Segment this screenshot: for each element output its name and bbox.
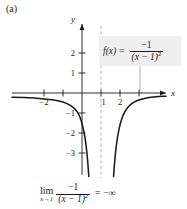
y-tick-label--3: −3 <box>66 148 75 158</box>
x-tick-label-1: 1 <box>101 97 105 107</box>
limit-fraction: −1 (x − 1)2 <box>56 183 90 205</box>
x-axis-arrowhead <box>160 91 166 96</box>
formula-expression: f(x) = −1 (x − 1)2 <box>103 38 181 65</box>
formula-denominator: (x − 1)2 <box>130 52 164 62</box>
formula-numerator: −1 <box>139 41 153 51</box>
limit-denominator: (x − 1)2 <box>56 195 90 205</box>
limit-statement: lim x→1 −1 (x − 1)2 = −∞ <box>40 181 180 207</box>
formula-equals: = <box>119 47 124 57</box>
figure-root: (a) −2 1 2 2 1 −1 −2 −3 x y <box>0 0 187 209</box>
limit-equals: = <box>95 189 100 199</box>
y-tick-label-1: 1 <box>71 68 75 78</box>
formula-fraction: −1 (x − 1)2 <box>130 41 164 63</box>
y-tick-label--2: −2 <box>66 128 75 138</box>
x-axis-label: x <box>170 88 175 98</box>
curve-left-branch <box>12 97 89 176</box>
formula-denominator-exponent: 2 <box>158 49 161 56</box>
y-tick-label-2: 2 <box>71 48 75 58</box>
graph-canvas: −2 1 2 2 1 −1 −2 −3 x y <box>0 0 187 209</box>
limit-numerator: −1 <box>66 183 80 193</box>
limit-denominator-base: (x − 1) <box>58 194 84 204</box>
limit-denominator-exponent: 2 <box>85 192 88 199</box>
y-tick-label--1: −1 <box>66 108 75 118</box>
formula-denominator-base: (x − 1) <box>132 52 158 62</box>
limit-subscript: x→1 <box>40 196 53 203</box>
limit-result: −∞ <box>103 189 115 199</box>
formula-lhs: f(x) <box>103 47 116 57</box>
y-axis-arrowhead <box>80 24 85 30</box>
x-tick-label-2: 2 <box>118 97 122 107</box>
curve-right-branch <box>114 96 166 176</box>
y-axis-label: y <box>70 14 75 24</box>
limit-operator: lim x→1 <box>40 186 53 203</box>
